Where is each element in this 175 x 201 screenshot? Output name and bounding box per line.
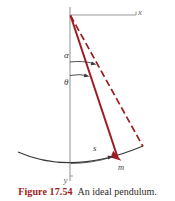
- alpha-label: α: [64, 50, 69, 60]
- figure-caption: Figure 17.54An ideal pendulum.: [0, 186, 175, 198]
- theta-angle-arc: [70, 75, 87, 76]
- theta-label: θ: [64, 77, 69, 87]
- pendulum-rod-current: [71, 16, 118, 158]
- figure-number: Figure 17.54: [18, 186, 72, 197]
- theta-angle-arrowhead: [84, 73, 90, 77]
- pendulum-diagram: x y m α θ s: [0, 0, 175, 201]
- mass-label: m: [118, 162, 124, 172]
- swing-arc: [18, 146, 143, 163]
- x-axis-label: x: [137, 7, 142, 17]
- arc-length-label: s: [93, 143, 97, 153]
- y-axis-label: y: [63, 175, 68, 185]
- pendulum-figure: x y m α θ s Figure 17.54An ideal pendulu…: [0, 0, 175, 201]
- figure-caption-text: An ideal pendulum.: [78, 186, 157, 197]
- alpha-angle-arc: [70, 62, 94, 64]
